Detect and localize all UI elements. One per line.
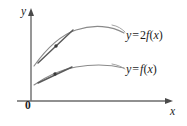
x-axis-arrowhead (165, 98, 173, 104)
curve-upper-2fx (34, 26, 124, 66)
curve-label-lower-equals: = (131, 62, 140, 76)
curve-label-upper-equals: = (131, 28, 140, 42)
x-axis-label: x (170, 106, 175, 118)
figure-container: y=2f(x) y=f(x) y x 0 (0, 0, 187, 126)
tangent-point-lower (53, 72, 56, 75)
origin-label: 0 (25, 100, 31, 112)
y-axis-arrowhead (28, 8, 34, 16)
curve-label-lower: y=f(x) (126, 63, 157, 75)
curve-label-lower-paren-close: ) (153, 62, 157, 76)
curve-label-upper: y=2f(x) (126, 29, 163, 41)
curve-label-upper-paren-close: ) (159, 28, 163, 42)
curve-lower-fx (34, 65, 124, 85)
tangent-point-upper (54, 44, 57, 47)
y-axis-label: y (21, 6, 26, 18)
